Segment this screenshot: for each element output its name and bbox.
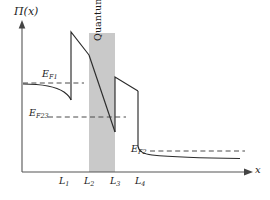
y-axis bbox=[19, 20, 26, 172]
x-tick-label-l2: L2 bbox=[84, 176, 94, 186]
fermi-level-ef23-label: EF23 bbox=[29, 108, 49, 118]
x-tick-label-l1: L1 bbox=[59, 176, 69, 186]
potential-curve bbox=[23, 32, 240, 159]
curve-barrier-2 bbox=[115, 77, 138, 132]
potential-profile-chart bbox=[0, 0, 270, 200]
curve-left-contact bbox=[23, 84, 71, 100]
x-tick-label-l3: L3 bbox=[110, 176, 120, 186]
figure-container: Π(x) x EF1 EF23 EF2 L1 L2 L3 L4 Quantum … bbox=[0, 0, 270, 200]
curve-barrier-1 bbox=[71, 32, 89, 100]
fermi-level-ef1-label: EF1 bbox=[42, 69, 58, 79]
curve-right-contact bbox=[138, 91, 240, 159]
fermi-level-ef2-label: EF2 bbox=[131, 144, 147, 154]
y-axis-label: Π(x) bbox=[14, 6, 38, 17]
quantum-well-band bbox=[89, 33, 115, 172]
x-tick-label-l4: L4 bbox=[135, 176, 145, 186]
x-axis-label: x bbox=[255, 165, 261, 175]
